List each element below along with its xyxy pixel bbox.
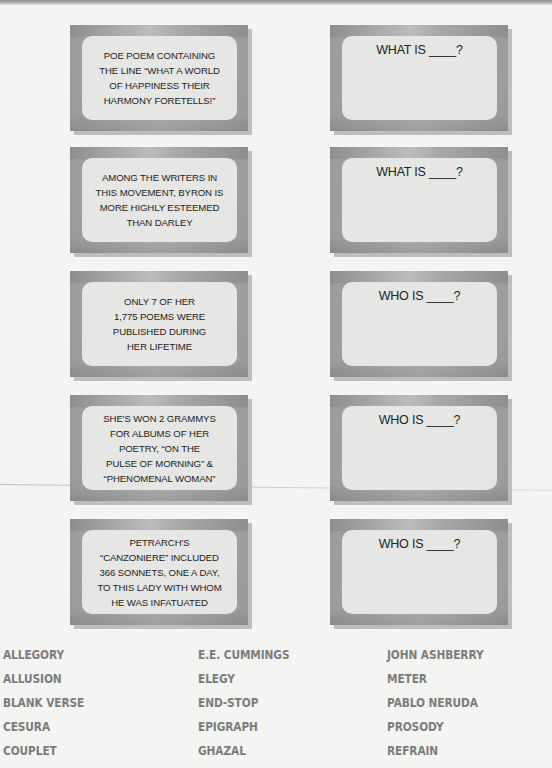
word-bank-item[interactable]: GHAZAL (198, 739, 289, 763)
response-card-5[interactable]: WHO IS ____? (330, 519, 508, 625)
word-bank-item[interactable]: METER (387, 667, 483, 691)
clue-panel: POE POEM CONTAINING THE LINE “WHAT A WOR… (82, 36, 237, 120)
word-bank: ALLEGORY ALLUSION BLANK VERSE CESURA COU… (0, 643, 552, 763)
response-prompt: WHO IS ____? (379, 288, 461, 304)
response-card-1[interactable]: WHAT IS ____? (330, 25, 508, 131)
word-bank-item[interactable]: ALLEGORY (3, 643, 84, 667)
word-bank-item[interactable]: E.E. CUMMINGS (198, 643, 289, 667)
clue-panel: ONLY 7 OF HER 1,775 POEMS WERE PUBLISHED… (82, 282, 237, 366)
word-bank-item[interactable]: ALLUSION (3, 667, 84, 691)
clue-text: ONLY 7 OF HER 1,775 POEMS WERE PUBLISHED… (109, 294, 210, 354)
word-bank-column-1: ALLEGORY ALLUSION BLANK VERSE CESURA COU… (3, 643, 91, 763)
response-panel[interactable]: WHO IS ____? (342, 406, 497, 490)
clue-card-3: ONLY 7 OF HER 1,775 POEMS WERE PUBLISHED… (70, 271, 248, 377)
response-card-2[interactable]: WHAT IS ____? (330, 147, 508, 253)
word-bank-column-3: JOHN ASHBERRY METER PABLO NERUDA PROSODY… (387, 643, 492, 763)
clue-text: PETRARCH'S “CANZONIERE” INCLUDED 366 SON… (93, 535, 225, 610)
top-border (0, 0, 552, 5)
clue-card-4: SHE'S WON 2 GRAMMYS FOR ALBUMS OF HER PO… (70, 395, 248, 501)
response-panel[interactable]: WHO IS ____? (342, 282, 497, 366)
word-bank-item[interactable]: REFRAIN (387, 739, 483, 763)
response-card-4[interactable]: WHO IS ____? (330, 395, 508, 501)
response-prompt: WHO IS ____? (379, 536, 461, 552)
clue-panel: SHE'S WON 2 GRAMMYS FOR ALBUMS OF HER PO… (82, 406, 237, 490)
response-prompt: WHAT IS ____? (376, 42, 463, 58)
word-bank-item[interactable]: END-STOP (198, 691, 289, 715)
clue-card-1: POE POEM CONTAINING THE LINE “WHAT A WOR… (70, 25, 248, 131)
clue-card-5: PETRARCH'S “CANZONIERE” INCLUDED 366 SON… (70, 519, 248, 625)
word-bank-column-2: E.E. CUMMINGS ELEGY END-STOP EPIGRAPH GH… (198, 643, 297, 763)
clue-card-2: AMONG THE WRITERS IN THIS MOVEMENT, BYRO… (70, 147, 248, 253)
word-bank-item[interactable]: ELEGY (198, 667, 289, 691)
response-panel[interactable]: WHO IS ____? (342, 530, 497, 614)
word-bank-item[interactable]: CESURA (3, 715, 84, 739)
clue-panel: PETRARCH'S “CANZONIERE” INCLUDED 366 SON… (82, 530, 237, 614)
clue-text: POE POEM CONTAINING THE LINE “WHAT A WOR… (95, 48, 224, 108)
clue-panel: AMONG THE WRITERS IN THIS MOVEMENT, BYRO… (82, 158, 237, 242)
word-bank-item[interactable]: JOHN ASHBERRY (387, 643, 483, 667)
response-panel[interactable]: WHAT IS ____? (342, 158, 497, 242)
word-bank-item[interactable]: PROSODY (387, 715, 483, 739)
response-prompt: WHO IS ____? (379, 412, 461, 428)
word-bank-item[interactable]: EPIGRAPH (198, 715, 289, 739)
word-bank-item[interactable]: PABLO NERUDA (387, 691, 483, 715)
clue-text: AMONG THE WRITERS IN THIS MOVEMENT, BYRO… (92, 170, 228, 230)
word-bank-item[interactable]: BLANK VERSE (3, 691, 84, 715)
response-card-3[interactable]: WHO IS ____? (330, 271, 508, 377)
clue-text: SHE'S WON 2 GRAMMYS FOR ALBUMS OF HER PO… (99, 411, 219, 486)
word-bank-item[interactable]: COUPLET (3, 739, 84, 763)
response-prompt: WHAT IS ____? (376, 164, 463, 180)
response-panel[interactable]: WHAT IS ____? (342, 36, 497, 120)
